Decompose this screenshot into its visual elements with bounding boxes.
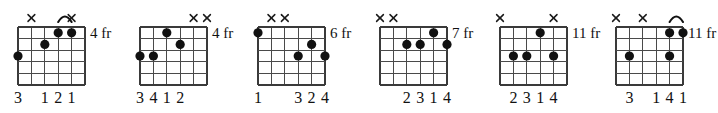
finger-number-label: 4: [321, 89, 329, 106]
fret-position-label: 6 fr: [330, 25, 351, 41]
finger-dot: [625, 51, 634, 60]
finger-number-label: 1: [430, 89, 438, 106]
chord-grid-2: 4 fr3412: [122, 0, 242, 113]
finger-number-label: 1: [254, 89, 262, 106]
mute-x-icon: [190, 15, 197, 22]
mute-x-icon: [377, 15, 384, 22]
fret-position-label: 11 fr: [688, 25, 716, 41]
finger-number-label: 1: [652, 89, 660, 106]
mute-x-icon: [390, 15, 397, 22]
finger-dot: [135, 51, 144, 60]
mute-x-icon: [613, 15, 620, 22]
fret-position-label: 4 fr: [90, 25, 111, 41]
finger-number-label: 4: [550, 89, 558, 106]
chord-grid-5: 11 fr2314: [482, 0, 602, 113]
finger-dot: [162, 28, 171, 37]
finger-dot: [416, 40, 425, 49]
chord-grid-6: 11 fr3141: [598, 0, 718, 113]
finger-number-label: 2: [176, 89, 184, 106]
mute-x-icon: [281, 15, 288, 22]
finger-number-label: 2: [403, 89, 411, 106]
finger-dot: [402, 40, 411, 49]
finger-dot: [549, 51, 558, 60]
chord-grid-3: 6 fr1324: [240, 0, 360, 113]
mute-x-icon: [550, 15, 557, 22]
finger-dot: [442, 40, 451, 49]
mute-x-icon: [28, 15, 35, 22]
mute-x-icon: [497, 15, 504, 22]
chord-grid-4: 7 fr2314: [362, 0, 482, 113]
finger-number-label: 2: [509, 89, 517, 106]
finger-dot: [294, 51, 303, 60]
barre-arc: [670, 17, 683, 23]
finger-dot: [13, 51, 22, 60]
finger-number-label: 2: [54, 89, 62, 106]
finger-number-label: 1: [536, 89, 544, 106]
fret-position-label: 7 fr: [452, 25, 473, 41]
fret-position-label: 4 fr: [212, 25, 233, 41]
finger-number-label: 3: [416, 89, 424, 106]
chord-diagram-1: 4 fr3121: [0, 0, 120, 113]
chord-diagram-5: 11 fr2314: [482, 0, 602, 113]
finger-dot: [67, 28, 76, 37]
finger-number-label: 1: [679, 89, 687, 106]
finger-dot: [253, 28, 262, 37]
finger-dot: [40, 40, 49, 49]
finger-dot: [307, 40, 316, 49]
mute-x-icon: [268, 15, 275, 22]
fret-position-label: 11 fr: [572, 25, 600, 41]
barre-arc: [58, 17, 71, 23]
finger-dot: [54, 28, 63, 37]
finger-number-label: 3: [14, 89, 22, 106]
finger-dot: [509, 51, 518, 60]
finger-dot: [678, 28, 687, 37]
finger-number-label: 1: [163, 89, 171, 106]
mute-x-icon: [639, 15, 646, 22]
finger-dot: [665, 51, 674, 60]
finger-dot: [320, 51, 329, 60]
finger-number-label: 4: [666, 89, 674, 106]
finger-number-label: 1: [41, 89, 49, 106]
finger-dot: [536, 28, 545, 37]
finger-number-label: 3: [523, 89, 531, 106]
chord-diagram-3: 6 fr1324: [240, 0, 360, 113]
finger-dot: [149, 51, 158, 60]
finger-number-label: 3: [625, 89, 633, 106]
finger-dot: [429, 28, 438, 37]
finger-number-label: 3: [136, 89, 144, 106]
chord-grid-1: 4 fr3121: [0, 0, 120, 113]
chord-diagram-6: 11 fr3141: [598, 0, 718, 113]
chord-diagram-2: 4 fr3412: [122, 0, 242, 113]
finger-number-label: 3: [294, 89, 302, 106]
finger-dot: [522, 51, 531, 60]
chord-diagram-4: 7 fr2314: [362, 0, 482, 113]
finger-dot: [665, 28, 674, 37]
finger-dot: [176, 40, 185, 49]
finger-number-label: 4: [443, 89, 451, 106]
finger-number-label: 2: [308, 89, 316, 106]
finger-number-label: 4: [149, 89, 157, 106]
finger-number-label: 1: [68, 89, 76, 106]
mute-x-icon: [204, 15, 211, 22]
